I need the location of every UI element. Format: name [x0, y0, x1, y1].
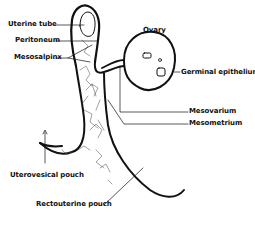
ligament-right-wall [95, 62, 184, 197]
label-uterine-tube: Uterine tube [8, 21, 57, 28]
label-uterovesical-pouch: Uterovesical pouch [10, 172, 84, 179]
ovary-outline [124, 32, 175, 90]
label-mesovarium: Mesovarium [189, 108, 236, 115]
label-peritoneum: Peritoneum [15, 37, 60, 44]
ligament-left-wall [40, 66, 84, 154]
broad-ligament-diagram: Uterine tube Peritoneum Mesosalpinx Ovar… [0, 0, 255, 225]
uterine-tube-inner-ring [80, 12, 95, 36]
label-mesometrium: Mesometrium [189, 120, 242, 127]
label-rectouterine-pouch: Rectouterine pouch [36, 201, 112, 208]
ovary-follicle-2 [157, 68, 165, 76]
leader-mesosalpinx-b [68, 58, 90, 62]
ovary-follicle-1 [143, 53, 151, 58]
ovary-follicle-3 [159, 59, 162, 62]
label-mesosalpinx: Mesosalpinx [14, 54, 62, 61]
label-ovary: Ovary [143, 27, 166, 34]
label-germinal-epithelium: Germinal epithelium [181, 69, 255, 76]
